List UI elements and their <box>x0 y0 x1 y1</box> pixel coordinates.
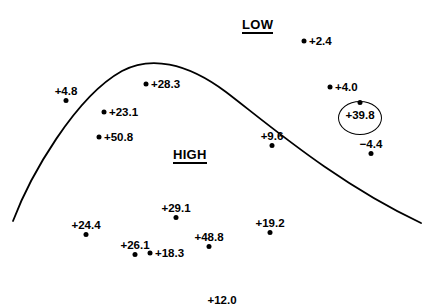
data-point-value: +26.1 <box>120 239 149 251</box>
data-point-value: +4.8 <box>55 85 78 97</box>
data-point-value: +29.1 <box>161 202 190 214</box>
station-dot-icon <box>270 143 275 148</box>
region-label-high: HIGH <box>173 148 207 164</box>
station-dot-icon <box>102 110 107 115</box>
station-dot-icon <box>268 230 273 235</box>
station-dot-icon <box>207 244 212 249</box>
station-dot-icon <box>328 85 333 90</box>
circled-reading-highlight <box>338 101 382 135</box>
station-dot-icon <box>302 39 307 44</box>
ridge-axis-curve <box>0 0 432 306</box>
data-point-value: +9.6 <box>261 130 284 142</box>
station-dot-icon <box>144 82 149 87</box>
data-point-value: +18.3 <box>155 247 184 259</box>
station-dot-icon <box>84 232 89 237</box>
station-dot-icon <box>174 215 179 220</box>
data-point-value: −4.4 <box>360 138 383 150</box>
data-point-value: +48.8 <box>194 231 223 243</box>
data-point-value: +23.1 <box>109 106 138 118</box>
region-label-low: LOW <box>242 18 273 34</box>
station-dot-icon <box>97 135 102 140</box>
data-point-value: +50.8 <box>104 131 133 143</box>
station-dot-icon <box>133 252 138 257</box>
data-point-value: +4.0 <box>335 81 358 93</box>
data-point-value: +24.4 <box>71 219 100 231</box>
station-dot-icon <box>148 251 153 256</box>
station-dot-icon <box>369 151 374 156</box>
data-point-value: +12.0 <box>207 294 236 306</box>
data-point-value: +28.3 <box>151 78 180 90</box>
data-point-value: +2.4 <box>309 35 332 47</box>
data-point-value: +19.2 <box>255 217 284 229</box>
station-dot-icon <box>64 98 69 103</box>
pressure-pattern-figure: LOWHIGH +2.4+4.8+28.3+4.0+23.1+50.8+9.6+… <box>0 0 432 306</box>
